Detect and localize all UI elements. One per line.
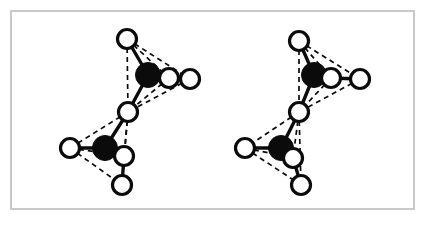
light-atom — [284, 149, 303, 168]
light-atom — [322, 69, 341, 88]
light-atom — [160, 69, 179, 88]
right-structure-atoms — [236, 32, 370, 195]
left-structure — [61, 30, 200, 195]
dark-atom — [136, 63, 161, 88]
light-atom — [351, 70, 370, 89]
light-atom — [290, 103, 309, 122]
light-atom — [113, 176, 132, 195]
light-atom — [181, 70, 200, 89]
light-atom — [61, 139, 80, 158]
right-structure — [236, 32, 370, 195]
light-atom — [290, 32, 309, 51]
structures-group — [61, 30, 370, 195]
figure-root — [0, 0, 430, 228]
light-atom — [119, 103, 138, 122]
light-atom — [292, 176, 311, 195]
molecular-diagram-canvas — [0, 0, 430, 228]
light-atom — [118, 30, 137, 49]
light-atom — [115, 147, 134, 166]
light-atom — [236, 139, 255, 158]
left-structure-atoms — [61, 30, 200, 195]
